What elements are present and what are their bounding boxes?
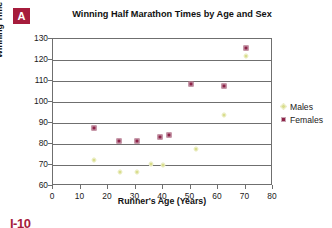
data-point-male	[147, 160, 154, 167]
y-axis-label: Winning Time (Minutes)	[0, 0, 4, 58]
data-point-female	[166, 132, 171, 137]
data-point-female	[117, 138, 122, 143]
legend-label-females: Females	[290, 115, 323, 125]
legend-label-males: Males	[290, 102, 313, 112]
gridline-110	[53, 81, 271, 82]
data-point-male	[117, 169, 124, 176]
page-marker: I-10	[10, 216, 30, 228]
y-tick-mark-80	[48, 143, 52, 144]
y-tick-label-70: 70	[24, 159, 48, 169]
gridline-90	[53, 123, 271, 124]
y-tick-mark-100	[48, 101, 52, 102]
y-tick-label-110: 110	[24, 75, 48, 85]
panel-letter-badge: A	[13, 8, 30, 24]
chart-figure: A Winning Half Marathon Times by Age and…	[0, 0, 332, 228]
data-point-male	[220, 111, 227, 118]
x-tick-mark-60	[217, 185, 218, 189]
data-point-male	[192, 146, 199, 153]
x-tick-mark-10	[80, 185, 81, 189]
female-marker-icon	[281, 117, 286, 122]
y-tick-mark-120	[48, 59, 52, 60]
x-tick-mark-70	[245, 185, 246, 189]
gridline-120	[53, 60, 271, 61]
x-tick-mark-80	[272, 185, 273, 189]
data-point-female	[243, 46, 248, 51]
x-tick-mark-20	[107, 185, 108, 189]
x-axis-label: Runner's Age (Years)	[52, 196, 272, 206]
gridline-100	[53, 102, 271, 103]
male-marker-icon	[280, 103, 287, 110]
data-point-male	[91, 156, 98, 163]
x-tick-mark-40	[162, 185, 163, 189]
y-tick-label-130: 130	[24, 33, 48, 43]
legend-item-females: Females	[281, 113, 323, 126]
y-tick-mark-130	[48, 38, 52, 39]
gridline-80	[53, 144, 271, 145]
plot-area	[52, 38, 272, 185]
data-point-female	[92, 126, 97, 131]
data-point-female	[158, 134, 163, 139]
y-tick-label-120: 120	[24, 54, 48, 64]
legend: Males Females	[281, 100, 323, 126]
y-tick-label-80: 80	[24, 138, 48, 148]
y-tick-label-100: 100	[24, 96, 48, 106]
data-point-male	[242, 52, 249, 59]
x-tick-mark-50	[190, 185, 191, 189]
data-point-female	[221, 84, 226, 89]
chart-title: Winning Half Marathon Times by Age and S…	[52, 9, 292, 19]
data-point-male	[133, 169, 140, 176]
y-tick-mark-110	[48, 80, 52, 81]
legend-item-males: Males	[281, 100, 323, 113]
x-tick-mark-0	[52, 185, 53, 189]
data-point-female	[134, 138, 139, 143]
y-tick-label-60: 60	[24, 180, 48, 190]
y-tick-mark-90	[48, 122, 52, 123]
data-point-male	[159, 161, 166, 168]
y-tick-mark-70	[48, 164, 52, 165]
x-tick-mark-30	[135, 185, 136, 189]
y-tick-label-90: 90	[24, 117, 48, 127]
data-point-female	[188, 82, 193, 87]
